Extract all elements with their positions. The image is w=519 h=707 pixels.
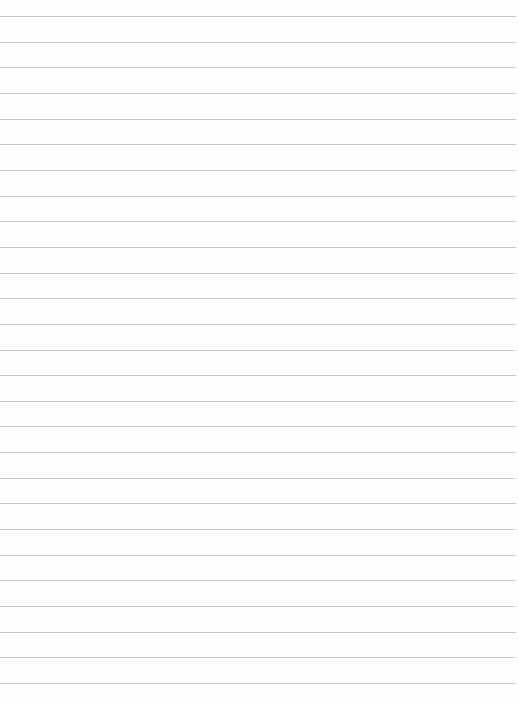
ruled-line (0, 273, 516, 274)
ruled-line (0, 683, 516, 684)
ruled-line (0, 606, 516, 607)
ruled-line (0, 324, 516, 325)
ruled-line (0, 221, 516, 222)
ruled-line (0, 298, 516, 299)
ruled-line (0, 67, 516, 68)
ruled-line (0, 401, 516, 402)
ruled-line (0, 478, 516, 479)
ruled-line (0, 247, 516, 248)
lined-paper-sheet (0, 0, 519, 707)
ruled-line (0, 657, 516, 658)
ruled-line (0, 144, 516, 145)
ruled-line (0, 555, 516, 556)
ruled-line (0, 426, 516, 427)
ruled-line (0, 503, 516, 504)
ruled-line (0, 170, 516, 171)
ruled-line (0, 580, 516, 581)
ruled-line (0, 375, 516, 376)
ruled-line (0, 93, 516, 94)
ruled-line (0, 452, 516, 453)
ruled-line (0, 529, 516, 530)
ruled-line (0, 196, 516, 197)
ruled-line (0, 119, 516, 120)
ruled-line (0, 350, 516, 351)
ruled-line (0, 42, 516, 43)
ruled-line (0, 16, 516, 17)
ruled-line (0, 632, 516, 633)
